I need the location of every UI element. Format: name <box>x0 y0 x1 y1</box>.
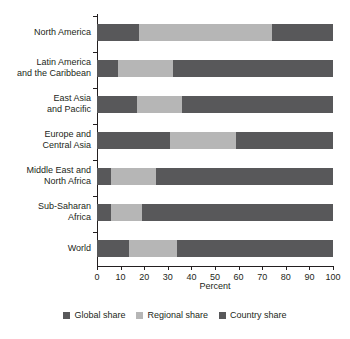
legend-swatch-icon <box>136 312 143 319</box>
legend-label: Country share <box>230 310 287 320</box>
x-axis-tick <box>309 266 310 270</box>
category-label-line: Africa <box>5 212 91 223</box>
bar-segment <box>137 96 182 113</box>
chart-legend: Global shareRegional shareCountry share <box>0 310 350 320</box>
chart-category-row: North America <box>97 14 333 50</box>
bar-segment <box>97 132 170 149</box>
category-label-line: and Pacific <box>5 104 91 115</box>
x-axis-tick <box>215 266 216 270</box>
legend-swatch-icon <box>63 312 70 319</box>
category-label: World <box>5 243 97 254</box>
category-label-line: Latin America <box>5 57 91 68</box>
category-label: North America <box>5 27 97 38</box>
x-axis-tick <box>262 266 263 270</box>
stacked-bar <box>97 168 333 185</box>
chart-category-row: Latin Americaand the Caribbean <box>97 50 333 86</box>
bar-segment <box>139 24 271 41</box>
bar-segment <box>111 204 142 221</box>
x-axis-title: Percent <box>97 281 333 291</box>
bar-segment <box>142 204 333 221</box>
legend-swatch-icon <box>219 312 226 319</box>
chart-category-row: Middle East andNorth Africa <box>97 158 333 194</box>
x-axis-tick <box>333 266 334 270</box>
category-label-line: Middle East and <box>5 165 91 176</box>
bar-segment <box>177 240 333 257</box>
bar-segment <box>97 204 111 221</box>
bar-segment <box>118 60 172 77</box>
y-axis-tick <box>93 196 97 197</box>
category-label: Latin Americaand the Caribbean <box>5 57 97 79</box>
legend-item: Regional share <box>136 310 208 320</box>
x-axis-tick <box>168 266 169 270</box>
chart-category-row: East Asiaand Pacific <box>97 86 333 122</box>
bar-segment <box>173 60 333 77</box>
bar-segment <box>97 240 129 257</box>
legend-label: Regional share <box>147 310 208 320</box>
stacked-bar <box>97 96 333 113</box>
bar-segment <box>182 96 333 113</box>
chart-category-row: Sub-SaharanAfrica <box>97 194 333 230</box>
category-label-line: North America <box>5 27 91 38</box>
category-label: Sub-SaharanAfrica <box>5 201 97 223</box>
category-label: Middle East andNorth Africa <box>5 165 97 187</box>
category-label: East Asiaand Pacific <box>5 93 97 115</box>
x-axis-tick <box>144 266 145 270</box>
bar-segment <box>97 168 111 185</box>
stacked-bar <box>97 60 333 77</box>
plot-area: North AmericaLatin Americaand the Caribb… <box>97 14 333 266</box>
category-label: Europe andCentral Asia <box>5 129 97 151</box>
legend-item: Global share <box>63 310 125 320</box>
bar-segment <box>156 168 333 185</box>
category-label-line: North Africa <box>5 176 91 187</box>
category-label-line: Europe and <box>5 129 91 140</box>
category-label-line: Sub-Saharan <box>5 201 91 212</box>
bar-segment <box>111 168 156 185</box>
stacked-bar <box>97 204 333 221</box>
bar-segment <box>97 96 137 113</box>
y-axis-tick <box>93 160 97 161</box>
stacked-bar-chart: North AmericaLatin Americaand the Caribb… <box>0 0 350 339</box>
category-label-line: and the Caribbean <box>5 68 91 79</box>
y-axis-tick <box>93 88 97 89</box>
stacked-bar <box>97 240 333 257</box>
bar-segment <box>272 24 333 41</box>
x-axis-tick <box>239 266 240 270</box>
bar-segment <box>129 240 177 257</box>
x-axis-tick <box>286 266 287 270</box>
bar-segment <box>170 132 236 149</box>
stacked-bar <box>97 24 333 41</box>
bar-segment <box>236 132 333 149</box>
category-label-line: East Asia <box>5 93 91 104</box>
x-axis-tick <box>121 266 122 270</box>
y-axis-tick <box>93 232 97 233</box>
x-axis-tick <box>97 266 98 270</box>
y-axis-tick <box>93 124 97 125</box>
chart-category-row: Europe andCentral Asia <box>97 122 333 158</box>
chart-category-row: World <box>97 230 333 266</box>
x-axis-tick <box>191 266 192 270</box>
y-axis-tick <box>93 52 97 53</box>
bar-segment <box>97 60 118 77</box>
bar-segment <box>97 24 139 41</box>
y-axis-tick <box>93 16 97 17</box>
stacked-bar <box>97 132 333 149</box>
legend-label: Global share <box>74 310 125 320</box>
legend-item: Country share <box>219 310 287 320</box>
category-label-line: Central Asia <box>5 140 91 151</box>
category-label-line: World <box>5 243 91 254</box>
